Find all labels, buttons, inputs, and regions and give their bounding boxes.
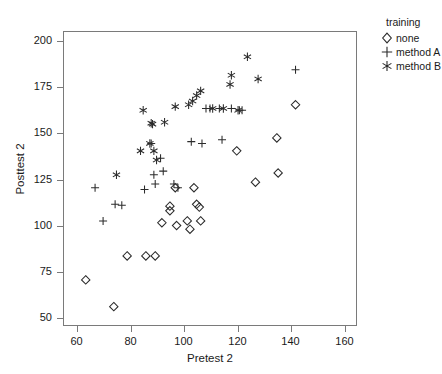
- x-tick-label-100: 100: [164, 335, 204, 347]
- x-tick-80: [131, 326, 132, 332]
- x-tick-label-80: 80: [111, 335, 151, 347]
- legend-label-none: none: [396, 32, 419, 44]
- x-tick-120: [238, 326, 239, 332]
- x-axis-title: Pretest 2: [63, 352, 357, 364]
- x-tick-60: [77, 326, 78, 332]
- x-tick-label-140: 140: [271, 335, 311, 347]
- y-tick-200: [57, 41, 63, 42]
- y-tick-label-175: 175: [12, 80, 52, 92]
- legend-item-method-a[interactable]: method A: [380, 45, 442, 59]
- legend-label-method-a: method A: [396, 46, 440, 58]
- y-tick-175: [57, 87, 63, 88]
- x-tick-label-120: 120: [218, 335, 258, 347]
- star-marker-icon: [380, 59, 394, 73]
- y-tick-label-75: 75: [12, 265, 52, 277]
- legend-label-method-b: method B: [396, 60, 441, 72]
- y-axis-title: Posttest 2: [14, 109, 26, 229]
- plus-marker-icon: [380, 45, 394, 59]
- y-tick-125: [57, 180, 63, 181]
- y-tick-150: [57, 133, 63, 134]
- x-tick-label-60: 60: [57, 335, 97, 347]
- legend: training none method A me: [380, 16, 442, 73]
- legend-title: training: [386, 16, 442, 28]
- x-tick-160: [345, 326, 346, 332]
- x-tick-140: [291, 326, 292, 332]
- y-tick-label-50: 50: [12, 311, 52, 323]
- legend-item-none[interactable]: none: [380, 31, 442, 45]
- x-tick-100: [184, 326, 185, 332]
- diamond-marker-icon: [380, 31, 394, 45]
- plot-area-frame: [63, 31, 357, 326]
- y-tick-label-200: 200: [12, 34, 52, 46]
- scatter-plot-figure: 50751001251501752006080100120140160 Pret…: [0, 0, 442, 374]
- y-tick-100: [57, 226, 63, 227]
- y-tick-75: [57, 272, 63, 273]
- legend-item-method-b[interactable]: method B: [380, 59, 442, 73]
- x-tick-label-160: 160: [325, 335, 365, 347]
- y-tick-50: [57, 318, 63, 319]
